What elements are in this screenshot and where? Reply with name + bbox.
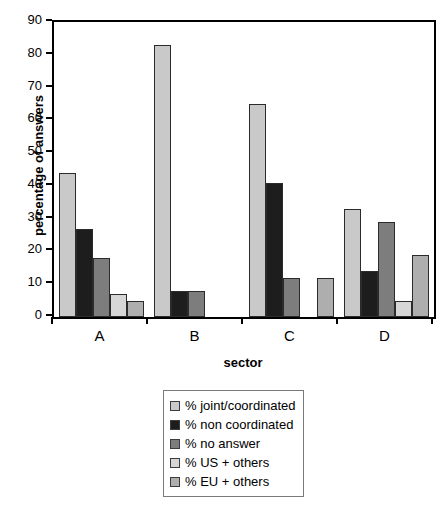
- bar: [266, 183, 283, 317]
- bar: [378, 222, 395, 317]
- bar: [76, 229, 93, 318]
- x-tick-mark: [241, 317, 243, 324]
- y-tick-label: 60: [0, 110, 42, 125]
- legend-swatch-icon: [170, 477, 180, 487]
- y-tick-label: 70: [0, 78, 42, 93]
- x-tick-mark: [51, 317, 53, 324]
- legend-item[interactable]: % joint/coordinated: [170, 396, 296, 415]
- bar: [412, 255, 429, 317]
- bar: [127, 301, 144, 317]
- bar: [59, 173, 76, 317]
- legend-label: % joint/coordinated: [185, 398, 296, 413]
- y-tick-label: 10: [0, 274, 42, 289]
- y-tick-label: 50: [0, 143, 42, 158]
- bar: [110, 294, 127, 317]
- legend-label: % US + others: [185, 455, 269, 470]
- y-tick-label: 90: [0, 12, 42, 27]
- y-tick-label: 30: [0, 209, 42, 224]
- bar: [395, 301, 412, 317]
- bar: [171, 291, 188, 317]
- legend-label: % EU + others: [185, 474, 269, 489]
- bars-layer: [54, 22, 434, 317]
- y-tick-label: 40: [0, 176, 42, 191]
- legend-label: % non coordinated: [185, 417, 293, 432]
- legend-swatch-icon: [170, 439, 180, 449]
- legend-label: % no answer: [185, 436, 260, 451]
- legend-swatch-icon: [170, 401, 180, 411]
- legend-swatch-icon: [170, 458, 180, 468]
- bar-chart-figure: percentage of answers 010203040506070809…: [0, 0, 445, 508]
- x-tick-mark: [431, 317, 433, 324]
- bar: [93, 258, 110, 317]
- bar: [249, 104, 266, 317]
- legend-item[interactable]: % US + others: [170, 453, 296, 472]
- chart-legend: % joint/coordinated% non coordinated% no…: [163, 390, 304, 497]
- x-group-label: A: [70, 327, 130, 344]
- legend-item[interactable]: % non coordinated: [170, 415, 296, 434]
- plot-area: [52, 20, 436, 319]
- bar: [317, 278, 334, 317]
- bar: [154, 45, 171, 317]
- x-group-label: B: [165, 327, 225, 344]
- bar: [344, 209, 361, 317]
- x-tick-mark: [146, 317, 148, 324]
- x-group-label: C: [260, 327, 320, 344]
- bar: [283, 278, 300, 317]
- bar: [361, 271, 378, 317]
- y-tick-label: 80: [0, 45, 42, 60]
- x-axis-title: sector: [52, 355, 434, 370]
- legend-item[interactable]: % no answer: [170, 434, 296, 453]
- y-tick-label: 20: [0, 241, 42, 256]
- legend-item[interactable]: % EU + others: [170, 472, 296, 491]
- x-group-label: D: [355, 327, 415, 344]
- y-tick-label: 0: [0, 307, 42, 322]
- bar: [188, 291, 205, 317]
- x-tick-mark: [336, 317, 338, 324]
- legend-swatch-icon: [170, 420, 180, 430]
- y-axis-title: percentage of answers: [31, 66, 46, 266]
